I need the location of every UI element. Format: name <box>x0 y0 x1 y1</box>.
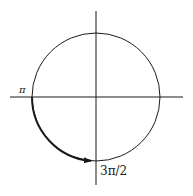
label-pi: π <box>19 85 26 95</box>
unit-circle-diagram <box>0 0 193 196</box>
arc-pi-to-3pi-over-2 <box>32 97 91 161</box>
label-3pi-over-2: 3π/2 <box>100 165 127 177</box>
